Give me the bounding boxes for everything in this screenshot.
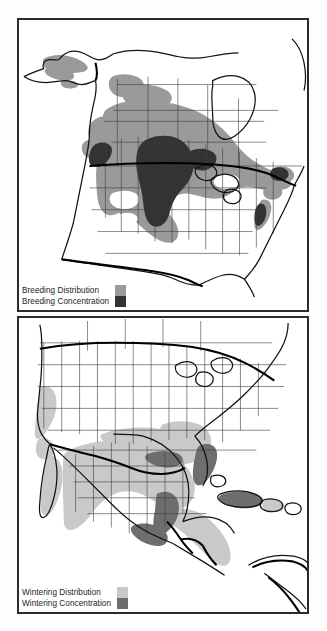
wintering-distribution-swatch [117, 587, 128, 598]
wintering-legend: Wintering Distribution Wintering Concent… [19, 584, 133, 612]
wintering-range-panel: Wintering Distribution Wintering Concent… [17, 316, 309, 614]
breeding-legend-swatches [115, 285, 126, 307]
range-map-figure: Breeding Distribution Breeding Concentra… [0, 0, 327, 631]
breeding-concentration-swatch [115, 296, 126, 307]
wintering-legend-labels: Wintering Distribution Wintering Concent… [22, 587, 111, 609]
breeding-legend: Breeding Distribution Breeding Concentra… [19, 282, 131, 310]
breeding-range-panel: Breeding Distribution Breeding Concentra… [17, 18, 309, 312]
wintering-concentration-label: Wintering Concentration [22, 598, 111, 609]
panel-divider [17, 312, 309, 314]
wintering-map-graphic [18, 317, 308, 613]
breeding-concentration-label: Breeding Concentration [22, 296, 109, 307]
breeding-distribution-label: Breeding Distribution [22, 285, 109, 296]
wintering-distribution-label: Wintering Distribution [22, 587, 111, 598]
wintering-concentration-swatch [117, 598, 128, 609]
breeding-map-graphic [18, 19, 308, 311]
breeding-distribution-swatch [115, 285, 126, 296]
wintering-legend-swatches [117, 587, 128, 609]
breeding-legend-labels: Breeding Distribution Breeding Concentra… [22, 285, 109, 307]
